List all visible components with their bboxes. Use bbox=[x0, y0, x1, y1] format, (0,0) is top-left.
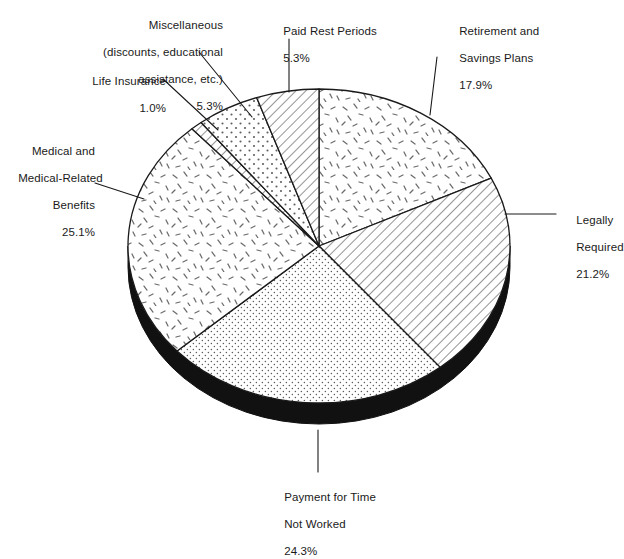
label-medical: Medical and Medical-Related Benefits 25.… bbox=[5, 131, 95, 253]
label-legally-required-line1: Legally bbox=[576, 214, 613, 226]
label-legally-required-line2: Required bbox=[576, 241, 623, 253]
leader-line-retirement bbox=[430, 57, 437, 115]
label-medical-line1: Medical and bbox=[32, 145, 95, 157]
label-legally-required: Legally Required 21.2% bbox=[563, 200, 621, 295]
label-miscellaneous-line1: Miscellaneous bbox=[149, 19, 223, 31]
label-payment-time-pct: 24.3% bbox=[284, 545, 317, 557]
label-medical-pct: 25.1% bbox=[62, 226, 95, 238]
label-life-insurance-pct: 1.0% bbox=[139, 102, 166, 114]
label-miscellaneous-pct: 5.3% bbox=[196, 100, 223, 112]
label-paid-rest-periods-pct: 5.3% bbox=[283, 52, 310, 64]
label-retirement-pct: 17.9% bbox=[459, 79, 492, 91]
leader-line-medical bbox=[95, 183, 144, 199]
label-retirement-line1: Retirement and bbox=[459, 25, 539, 37]
label-medical-line3: Benefits bbox=[53, 199, 95, 211]
label-payment-time-line2: Not Worked bbox=[284, 518, 346, 530]
label-legally-required-pct: 21.2% bbox=[576, 268, 609, 280]
label-paid-rest-periods-line1: Paid Rest Periods bbox=[283, 25, 377, 37]
label-payment-time-line1: Payment for Time bbox=[284, 491, 376, 503]
label-retirement: Retirement and Savings Plans 17.9% bbox=[446, 11, 606, 106]
label-life-insurance: Life Insurance 1.0% bbox=[25, 61, 166, 129]
label-miscellaneous-line2: (discounts, educational bbox=[103, 46, 223, 58]
label-payment-time: Payment for Time Not Worked 24.3% bbox=[271, 477, 451, 559]
label-paid-rest-periods: Paid Rest Periods 5.3% bbox=[270, 11, 430, 79]
label-retirement-line2: Savings Plans bbox=[459, 52, 533, 64]
label-medical-line2: Medical-Related bbox=[18, 172, 103, 184]
label-life-insurance-line1: Life Insurance bbox=[92, 75, 166, 87]
pie-slices-group bbox=[128, 89, 510, 403]
